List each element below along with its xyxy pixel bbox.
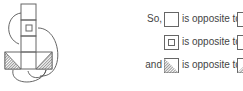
face-blank-icon bbox=[164, 12, 179, 27]
face-top bbox=[21, 4, 36, 20]
cube-net-diagram bbox=[0, 0, 70, 91]
face-blank-icon bbox=[237, 12, 243, 27]
face-small-square-icon bbox=[164, 35, 179, 50]
face-middle bbox=[21, 36, 36, 52]
face-hatched-right-icon bbox=[237, 58, 243, 73]
face-hatched-left bbox=[5, 52, 21, 69]
face-small-square bbox=[21, 20, 36, 36]
face-hatched-left-icon bbox=[164, 58, 179, 73]
face-blank-icon bbox=[237, 35, 243, 50]
face-hatched-right bbox=[36, 52, 52, 69]
arrow-top-to-middle bbox=[9, 13, 21, 44]
